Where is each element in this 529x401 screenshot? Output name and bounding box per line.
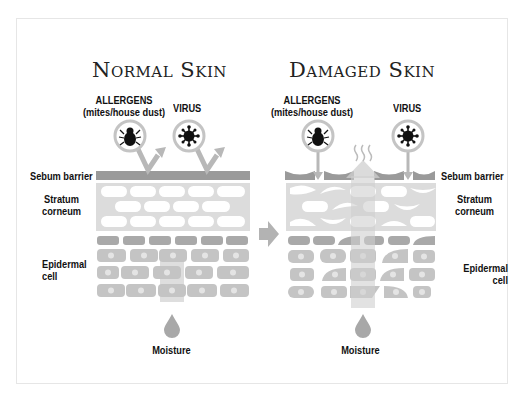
water-drop-icon bbox=[164, 314, 180, 338]
water-drop-icon bbox=[355, 314, 371, 338]
right-arrow-icon bbox=[259, 221, 279, 247]
normal-epidermal-label: Epidermal cell bbox=[42, 258, 87, 282]
normal-sebum-barrier bbox=[96, 171, 250, 180]
virus-icon bbox=[393, 121, 423, 151]
virus-icon bbox=[174, 121, 204, 151]
damaged-moisture-label: Moisture bbox=[334, 344, 387, 356]
damaged-allergens-label: ALLERGENS (mites/house dust) bbox=[268, 94, 356, 118]
normal-dark-cell-row bbox=[97, 236, 248, 245]
normal-skin-title: Normal Skin bbox=[92, 58, 227, 82]
mite-icon bbox=[303, 121, 333, 151]
damaged-sebum-label: Sebum barrier bbox=[441, 170, 504, 182]
damaged-stratum-label: Stratum corneum bbox=[449, 193, 500, 217]
damaged-epidermal-label: Epidermal cell bbox=[455, 262, 508, 286]
damaged-skin-title: Damaged Skin bbox=[289, 58, 435, 82]
normal-deflect-arrows bbox=[138, 149, 217, 170]
normal-sebum-label: Sebum barrier bbox=[30, 170, 93, 182]
normal-corneum-cells bbox=[101, 186, 245, 227]
steam-icon bbox=[355, 145, 372, 161]
damaged-virus-label: VIRUS bbox=[393, 102, 421, 114]
moisture-escape-column bbox=[351, 176, 375, 308]
mite-icon bbox=[115, 121, 145, 151]
normal-moisture-label: Moisture bbox=[145, 344, 198, 356]
normal-stratum-label: Stratum corneum bbox=[36, 193, 87, 217]
normal-allergens-label: ALLERGENS (mites/house dust) bbox=[80, 94, 168, 118]
normal-virus-label: VIRUS bbox=[173, 102, 201, 114]
